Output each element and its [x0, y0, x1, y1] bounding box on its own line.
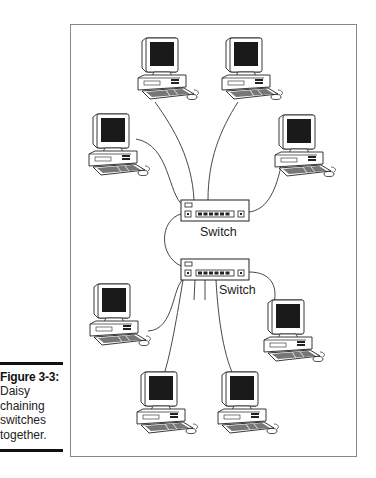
switch-1: Switch	[181, 200, 249, 239]
pc-top-left	[138, 38, 198, 100]
switch-2-label: Switch	[219, 283, 256, 297]
pc-lower-right	[264, 300, 324, 362]
pc-mid-left	[89, 114, 149, 176]
pc-top-right	[222, 38, 282, 100]
pc-bottom-left	[137, 372, 197, 434]
switch-1-label: Switch	[200, 225, 237, 239]
switch-2: Switch	[181, 259, 256, 297]
pc-lower-left	[90, 284, 150, 346]
pc-bottom-right	[218, 372, 278, 434]
pc-mid-right	[275, 115, 335, 177]
network-diagram: Switch Switch	[0, 0, 376, 478]
network-cables	[136, 102, 281, 380]
